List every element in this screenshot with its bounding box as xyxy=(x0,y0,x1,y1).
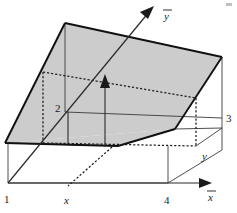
shaded-inclined-plane xyxy=(5,23,222,143)
label-three: 3 xyxy=(226,112,232,124)
hidden-x-axis-dashed xyxy=(68,147,112,186)
label-two: 2 xyxy=(55,102,61,114)
label-one: 1 xyxy=(4,193,10,205)
label-y-lower: y xyxy=(201,150,207,162)
scan-artifact xyxy=(226,3,232,6)
x-bar-label: x xyxy=(207,191,213,203)
label-x-lower: x xyxy=(63,194,69,206)
right-rear-horizontal xyxy=(175,128,222,129)
x-bar-arrow-head xyxy=(199,178,212,188)
label-four: 4 xyxy=(164,194,170,206)
y-bar-label: y xyxy=(163,10,169,22)
scan-speck xyxy=(87,32,89,34)
y-bar-arrow-head xyxy=(140,6,154,19)
lower-y-diagonal xyxy=(196,128,222,146)
figure-container: y x 1 x 4 2 3 y xyxy=(0,0,237,213)
geometry-diagram: y x 1 x 4 2 3 y xyxy=(0,0,237,213)
base-right-diagonal xyxy=(168,150,222,183)
